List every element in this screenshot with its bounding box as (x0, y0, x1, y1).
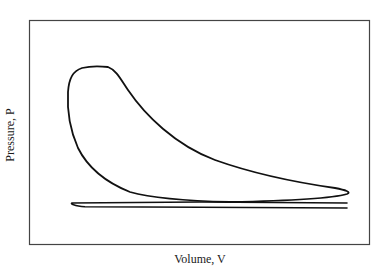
y-axis-label: Pressure, P (3, 90, 17, 180)
plot-area (0, 0, 382, 270)
power-loop-curve (68, 66, 349, 202)
pv-indicator-diagram: Pressure, P Volume, V (0, 0, 382, 270)
pumping-loop-curve (72, 202, 347, 208)
x-axis-label: Volume, V (150, 252, 250, 266)
plot-frame (30, 21, 370, 245)
